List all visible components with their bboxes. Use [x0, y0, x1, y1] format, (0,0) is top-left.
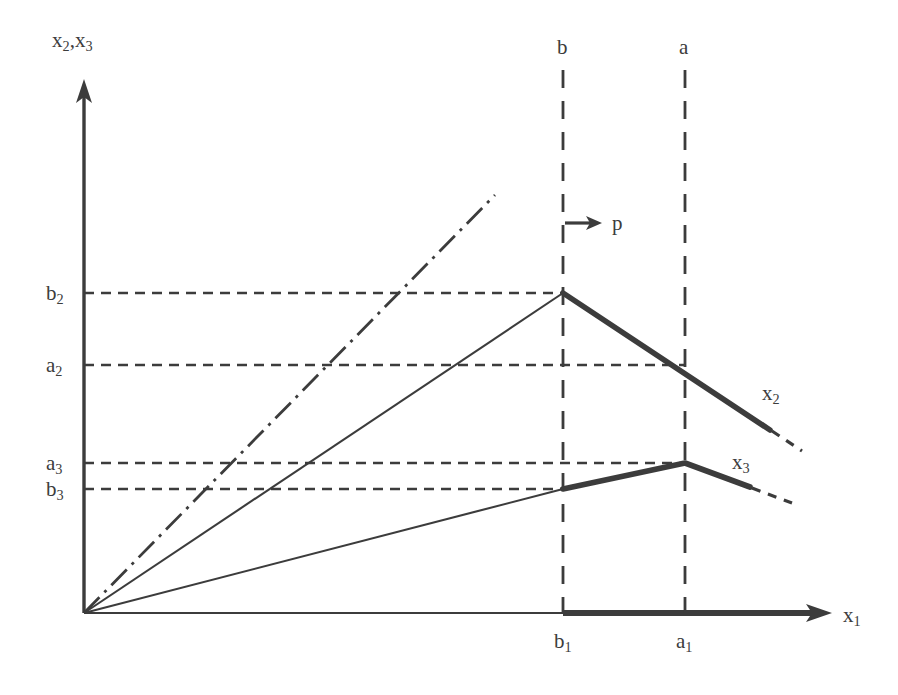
curve-x3-thick-segment	[563, 463, 750, 489]
y-tick-a2-base: a	[46, 353, 55, 377]
curve-label-x2: x2	[762, 383, 780, 406]
curve-x2-base: x	[762, 381, 773, 405]
y-tick-label-a3: a3	[46, 453, 62, 476]
y-tick-label-a2: a2	[46, 355, 62, 378]
y-axis-title-base2: x	[75, 28, 86, 52]
x-axis-title-base: x	[843, 603, 854, 627]
curve-x3-dashed-tail	[752, 488, 792, 503]
y-tick-b3-base: b	[46, 477, 57, 501]
y-tick-label-b3: b3	[46, 479, 64, 502]
curve-label-x3: x3	[732, 452, 750, 475]
x-tick-label-a1: a1	[676, 631, 692, 654]
x-tick-b1-base: b	[554, 629, 565, 653]
curve-x2-rising-thin	[84, 293, 563, 613]
p-annotation-arrow-group	[565, 216, 602, 230]
curve-x3-sub: 3	[743, 460, 750, 476]
y-axis-title: x2,x3	[52, 30, 93, 53]
x-axis-title-sub: 1	[854, 613, 861, 629]
p-annotation-label: p	[612, 213, 623, 234]
x-tick-a1-sub: 1	[685, 639, 692, 655]
curve-x2-dashed-tail	[772, 431, 802, 451]
y-tick-b2-base: b	[46, 281, 57, 305]
curve-x2-falling-thick	[563, 293, 770, 430]
curve-x3-rising-thin	[84, 489, 563, 613]
x-tick-a1-base: a	[676, 629, 685, 653]
y-tick-label-b2: b2	[46, 283, 64, 306]
y-axis-title-sub-a: 2	[63, 38, 70, 54]
x-tick-b1-sub: 1	[565, 639, 572, 655]
y-tick-a3-sub: 3	[55, 461, 62, 477]
y-tick-a2-sub: 2	[55, 363, 62, 379]
y-tick-a3-base: a	[46, 451, 55, 475]
marker-label-a: a	[679, 37, 688, 58]
reference-ray-dash-dot	[84, 195, 495, 613]
reference-ray-group	[84, 195, 495, 613]
curve-x2-sub: 2	[773, 391, 780, 407]
y-axis-title-base: x	[52, 28, 63, 52]
x-axis-title: x1	[843, 605, 861, 628]
x-tick-label-b1: b1	[554, 631, 572, 654]
curve-x2-group	[84, 293, 802, 613]
figure-root: x2,x3 x1 b2 a2 a3 b3 b1 a1 b a x2 x3 p	[0, 0, 898, 695]
horizontal-guides	[84, 293, 685, 489]
axis-group	[76, 79, 832, 622]
y-tick-b2-sub: 2	[57, 291, 64, 307]
curve-x3-base: x	[732, 450, 743, 474]
marker-label-b: b	[557, 37, 568, 58]
y-axis-title-sub-b: 3	[85, 38, 92, 54]
diagram-canvas	[0, 0, 898, 695]
vertical-guides	[563, 70, 685, 613]
y-tick-b3-sub: 3	[57, 487, 64, 503]
